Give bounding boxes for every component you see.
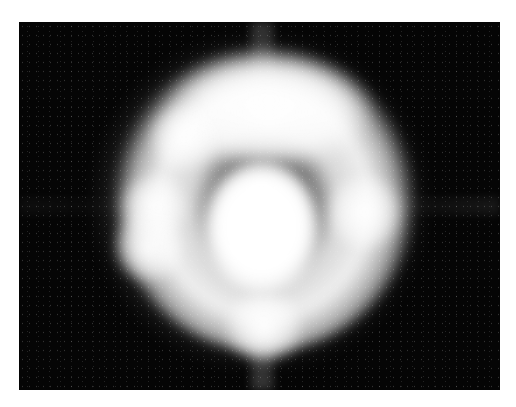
photo-frame [19,22,500,390]
bright-core [204,162,319,292]
halo-lobe [114,207,184,287]
halo-lobe [324,172,404,252]
halo-lobe [149,102,219,172]
halo-lobe [219,292,309,362]
